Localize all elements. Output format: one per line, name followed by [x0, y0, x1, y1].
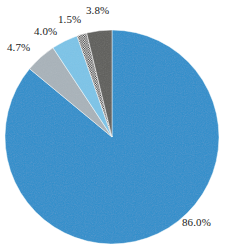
slice-label-4-0: 4.0%: [34, 25, 57, 37]
pie-chart: 4.7% 4.0% 1.5% 3.8% 86.0%: [0, 0, 227, 251]
slice-label-3-8: 3.8%: [86, 4, 109, 16]
pie-slices-group: [5, 30, 219, 244]
slice-label-86-0: 86.0%: [182, 216, 211, 228]
pie-chart-canvas: [0, 0, 227, 251]
slice-label-4-7: 4.7%: [7, 41, 30, 53]
slice-label-1-5: 1.5%: [58, 13, 81, 25]
